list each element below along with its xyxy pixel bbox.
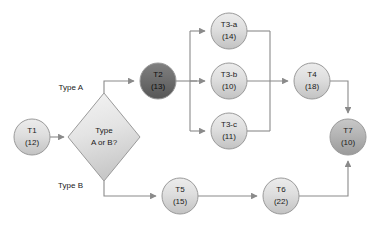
node-t5-duration: (15) [173,197,188,206]
flowchart-canvas: Type A or B? T1 (12) T2 (13) T3-a (14) T… [0,0,390,226]
node-t3-a-name: T3-a [221,20,238,29]
node-t1-name: T1 [27,126,37,135]
node-t3-c-name: T3-c [221,120,237,129]
node-t3-b-circle [211,63,247,99]
node-t7-name: T7 [343,126,353,135]
node-t2-duration: (13) [151,82,166,91]
edge-decision-to-t5 [104,181,156,196]
node-t1-circle [14,119,50,155]
node-t3-b-duration: (10) [222,82,237,91]
node-t5[interactable]: T5 (15) [162,178,198,214]
edge-t6-to-t7 [299,161,348,196]
flowchart-diagram: Type A or B? T1 (12) T2 (13) T3-a (14) T… [0,0,390,226]
node-t4-duration: (18) [305,82,320,91]
node-t4-circle [294,63,330,99]
node-t3-a-duration: (14) [222,32,237,41]
node-t6-name: T6 [276,185,286,194]
decision-diamond-shape [68,93,140,181]
node-t2-circle [140,63,176,99]
node-t4[interactable]: T4 (18) [294,63,330,99]
node-t5-name: T5 [175,185,185,194]
branch-label-type-a: Type A [59,83,84,92]
node-t6[interactable]: T6 (22) [263,178,299,214]
node-t6-circle [263,178,299,214]
node-t5-circle [162,178,198,214]
node-t2-name: T2 [153,70,163,79]
node-t3-b-name: T3-b [221,70,238,79]
decision-label-line1: Type [95,126,113,135]
edge-t4-to-t7 [330,81,348,113]
node-t7-circle [330,119,366,155]
node-t7[interactable]: T7 (10) [330,119,366,155]
node-t4-name: T4 [307,70,317,79]
node-t3-c-circle [211,113,247,149]
node-t7-duration: (10) [341,138,356,147]
node-t3-c[interactable]: T3-c (11) [211,113,247,149]
decision-label-line2: A or B? [91,138,118,147]
node-t1[interactable]: T1 (12) [14,119,50,155]
decision-node-type-a-or-b[interactable]: Type A or B? [68,93,140,181]
edge-decision-to-t2 [104,81,134,93]
node-t6-duration: (22) [274,197,289,206]
node-t1-duration: (12) [25,138,40,147]
node-t3-a[interactable]: T3-a (14) [211,13,247,49]
node-t3-a-circle [211,13,247,49]
node-t2[interactable]: T2 (13) [140,63,176,99]
node-t3-b[interactable]: T3-b (10) [211,63,247,99]
branch-label-type-b: Type B [58,181,83,190]
node-t3-c-duration: (11) [222,132,236,141]
